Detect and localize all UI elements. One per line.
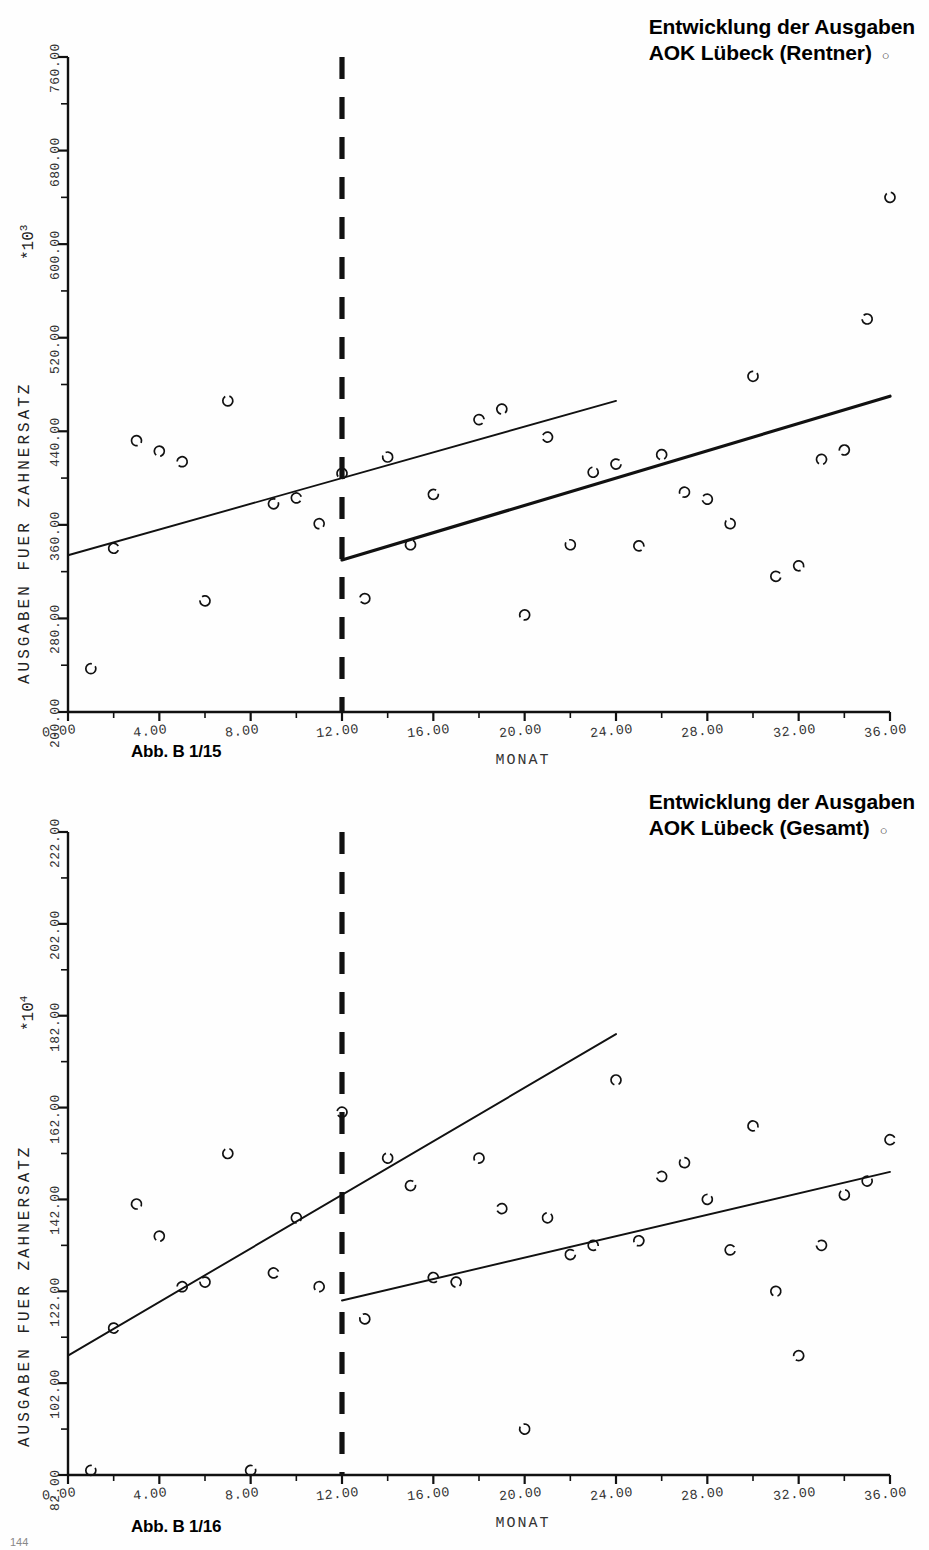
page-number: 144: [10, 1536, 28, 1548]
data-point: [723, 517, 737, 531]
data-point: [837, 1188, 851, 1202]
data-point: [769, 1284, 783, 1298]
y-tick-label: 760.00: [48, 43, 63, 93]
data-point: [221, 394, 235, 408]
figure-abb-b-1-16: Entwicklung der Ausgaben AOK Lübeck (Ges…: [0, 775, 929, 1550]
data-point: [747, 371, 758, 382]
data-point: [564, 538, 576, 550]
data-point: [175, 455, 189, 469]
data-point: [587, 466, 600, 479]
chart-canvas: [0, 775, 929, 1550]
data-point: [838, 443, 851, 456]
data-point: [382, 452, 393, 463]
data-point: [495, 402, 509, 416]
data-point: [313, 1281, 325, 1293]
y-tick-label: 222.00: [48, 818, 63, 868]
data-point: [678, 1156, 692, 1170]
data-point: [679, 486, 691, 498]
y-tick-label: 162.00: [48, 1094, 63, 1144]
data-point: [633, 1235, 645, 1247]
y-tick-label: 102.00: [48, 1369, 63, 1419]
y-axis-multiplier-exponent: 4: [18, 996, 30, 1003]
y-axis-title: AUSGABEN FUER ZAHNERSATZ: [16, 382, 34, 684]
data-point: [520, 610, 530, 620]
y-tick-label: 520.00: [48, 324, 63, 374]
data-point: [793, 560, 804, 571]
data-point: [883, 190, 897, 204]
y-axis-title: AUSGABEN FUER ZAHNERSATZ: [16, 1145, 34, 1447]
data-point: [290, 491, 303, 504]
data-point: [130, 1198, 142, 1210]
data-point: [267, 1266, 280, 1279]
data-point: [427, 488, 440, 501]
post-intervention-trend: [342, 1172, 890, 1301]
data-point: [312, 517, 325, 530]
data-point: [723, 1243, 737, 1257]
data-point: [290, 1211, 303, 1224]
data-point: [359, 1313, 370, 1324]
data-point: [609, 1073, 623, 1087]
data-point: [769, 569, 783, 583]
y-tick-label: 600.00: [48, 230, 63, 280]
data-point: [221, 1146, 235, 1160]
data-point: [268, 498, 280, 510]
data-point: [861, 313, 873, 325]
data-point: [153, 1230, 166, 1243]
data-point: [473, 413, 485, 425]
figure-2-caption: Abb. B 1/16: [131, 1517, 221, 1537]
data-point: [381, 1151, 395, 1165]
y-tick-label: 202.00: [48, 910, 63, 960]
x-axis-title: MONAT: [495, 752, 550, 769]
y-tick-label: 440.00: [48, 417, 63, 467]
data-point: [541, 1211, 554, 1224]
data-point: [86, 664, 96, 674]
data-point: [130, 434, 142, 446]
data-point: [518, 1423, 530, 1435]
data-point: [792, 1349, 805, 1362]
y-axis-multiplier-exponent: 3: [18, 225, 30, 232]
y-axis-multiplier-base: *10: [20, 1003, 38, 1032]
y-tick-label: 360.00: [48, 511, 63, 561]
data-point: [541, 430, 555, 444]
x-axis-title: MONAT: [495, 1515, 550, 1532]
data-point: [153, 445, 166, 458]
y-axis-multiplier: *103: [18, 225, 38, 260]
figure-2-plot-area: 82.00102.00122.00142.00162.00182.00202.0…: [0, 775, 929, 1550]
y-tick-label: 142.00: [48, 1186, 63, 1236]
data-point: [883, 1133, 897, 1147]
y-axis-multiplier: *104: [18, 996, 38, 1031]
data-point: [358, 591, 372, 605]
y-tick-label: 280.00: [48, 605, 63, 655]
y-tick-label: 680.00: [48, 137, 63, 187]
data-point: [449, 1275, 463, 1289]
figure-1-plot-area: 200.00280.00360.00440.00520.00600.00680.…: [0, 0, 929, 775]
post-intervention-trend: [342, 396, 890, 560]
y-tick-label: 182.00: [48, 1002, 63, 1052]
data-point: [495, 1202, 509, 1216]
data-point: [609, 457, 623, 471]
data-point: [701, 492, 714, 505]
data-point: [747, 1120, 758, 1131]
data-point: [633, 541, 644, 552]
data-point: [404, 1179, 417, 1192]
data-point: [815, 453, 829, 467]
data-point: [200, 595, 211, 606]
data-point: [563, 1248, 577, 1262]
data-point: [815, 1239, 827, 1251]
data-point: [474, 1153, 484, 1163]
data-point: [702, 1194, 713, 1205]
data-point: [655, 1170, 668, 1183]
y-axis-multiplier-base: *10: [20, 231, 38, 260]
data-point: [655, 448, 669, 462]
chart-canvas: [0, 0, 929, 775]
scanned-document-page: Entwicklung der Ausgaben AOK Lübeck (Ren…: [0, 0, 929, 1550]
y-tick-label: 122.00: [48, 1277, 63, 1327]
figure-abb-b-1-15: Entwicklung der Ausgaben AOK Lübeck (Ren…: [0, 0, 929, 775]
figure-1-caption: Abb. B 1/15: [131, 742, 221, 762]
